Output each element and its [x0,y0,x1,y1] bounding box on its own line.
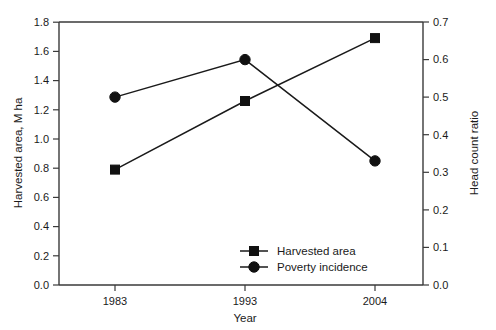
poverty-incidence-point-1993 [240,54,250,64]
x-axis-title: Year [233,312,256,324]
harvested-area-point-2004 [371,34,380,43]
dual-axis-line-chart: 0.0 0.2 0.4 0.6 0.8 1.0 1.2 1.4 1.6 1.8 … [0,0,496,330]
right-tick-label: 0.0 [433,279,448,291]
left-tick-label: 1.8 [34,16,49,28]
left-tick-label: 0.0 [34,279,49,291]
chart-page: 0.0 0.2 0.4 0.6 0.8 1.0 1.2 1.4 1.6 1.8 … [0,0,496,330]
x-tick-label: 2004 [363,295,387,307]
left-tick-label: 0.8 [34,162,49,174]
y2-axis-title: Head count ratio [468,111,480,195]
left-tick-label: 1.6 [34,45,49,57]
chart-background [0,0,496,330]
poverty-incidence-point-1983 [110,92,120,102]
right-tick-label: 0.3 [433,166,448,178]
left-tick-label: 0.4 [34,220,49,232]
left-tick-label: 1.2 [34,104,49,116]
x-tick-label: 1993 [233,295,257,307]
right-tick-label: 0.1 [433,241,448,253]
harvested-area-point-1993 [241,97,250,106]
right-tick-label: 0.2 [433,204,448,216]
right-tick-label: 0.4 [433,129,448,141]
circle-marker-icon [249,262,259,272]
y-axis-title: Harvested area, M ha [12,97,24,208]
left-tick-label: 1.4 [34,74,49,86]
right-tick-label: 0.5 [433,91,448,103]
poverty-incidence-point-2004 [370,156,380,166]
harvested-area-point-1983 [111,165,120,174]
left-tick-label: 0.6 [34,191,49,203]
left-tick-label: 0.2 [34,250,49,262]
square-marker-icon [250,247,259,256]
left-tick-label: 1.0 [34,133,49,145]
right-tick-label: 0.6 [433,53,448,65]
legend-item-harvested-area: Harvested area [240,245,356,257]
legend-label-poverty-incidence: Poverty incidence [277,261,368,273]
x-tick-label: 1983 [103,295,127,307]
legend-label-harvested-area: Harvested area [277,245,356,257]
right-tick-label: 0.7 [433,16,448,28]
